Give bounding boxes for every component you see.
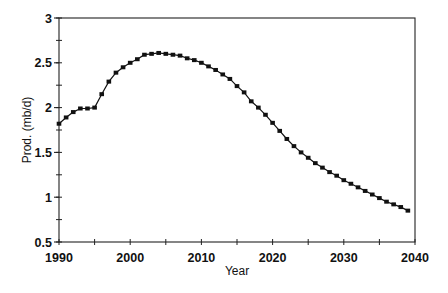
data-point-marker <box>64 115 69 119</box>
y-axis-title: Prod. (mb/d) <box>20 97 34 164</box>
data-point-marker <box>327 170 332 174</box>
data-point-marker <box>164 52 169 56</box>
data-point-marker <box>235 84 240 88</box>
data-point-marker <box>342 178 347 182</box>
y-axis: 0.511.522.53 <box>35 12 62 250</box>
x-tick-label: 2010 <box>187 251 215 265</box>
data-point-marker <box>363 189 368 193</box>
line-chart: 0.511.522.53 199020002010202020302040 Ye… <box>0 0 448 293</box>
data-point-marker <box>85 106 90 110</box>
y-tick-label: 2 <box>45 101 52 115</box>
data-point-marker <box>71 110 76 114</box>
data-point-marker <box>313 161 318 165</box>
data-point-marker <box>171 53 176 57</box>
x-tick-label: 2020 <box>259 251 287 265</box>
data-point-marker <box>135 57 140 61</box>
data-point-marker <box>57 122 62 126</box>
data-point-marker <box>320 166 325 170</box>
y-tick-label: 3 <box>45 12 52 26</box>
data-point-marker <box>263 113 268 117</box>
data-series <box>57 51 410 213</box>
data-point-marker <box>114 71 119 75</box>
plot-area-border <box>59 18 415 242</box>
data-point-marker <box>99 92 104 96</box>
data-point-marker <box>142 53 147 57</box>
data-point-marker <box>149 52 154 56</box>
data-point-marker <box>178 54 183 58</box>
data-point-marker <box>391 202 396 206</box>
data-point-marker <box>213 68 218 72</box>
data-point-marker <box>156 51 161 55</box>
plot-frame <box>59 18 415 242</box>
data-point-marker <box>206 64 211 68</box>
data-point-marker <box>121 65 126 69</box>
series-line <box>59 53 408 211</box>
data-point-marker <box>398 205 403 209</box>
data-point-marker <box>249 99 254 103</box>
data-point-marker <box>384 200 389 204</box>
y-tick-label: 1 <box>45 191 52 205</box>
data-point-marker <box>92 106 97 110</box>
data-point-marker <box>192 58 197 62</box>
x-tick-label: 2040 <box>401 251 429 265</box>
data-point-marker <box>228 77 233 81</box>
data-point-marker <box>349 182 354 186</box>
data-point-marker <box>377 196 382 200</box>
data-point-marker <box>270 121 275 125</box>
x-axis-title: Year <box>225 264 249 278</box>
data-point-marker <box>285 137 290 141</box>
data-point-marker <box>199 61 204 65</box>
x-tick-label: 1990 <box>45 251 73 265</box>
data-point-marker <box>370 193 375 197</box>
data-point-marker <box>242 90 247 94</box>
data-point-marker <box>334 174 339 178</box>
x-tick-label: 2030 <box>330 251 358 265</box>
data-point-marker <box>107 80 112 84</box>
data-point-marker <box>406 209 411 213</box>
data-point-marker <box>356 185 361 189</box>
data-point-marker <box>299 150 304 154</box>
data-point-marker <box>277 129 282 133</box>
data-point-marker <box>185 56 190 60</box>
data-point-marker <box>256 106 261 110</box>
x-axis: 199020002010202020302040 <box>45 239 429 265</box>
y-tick-label: 1.5 <box>35 146 52 160</box>
data-point-marker <box>78 106 83 110</box>
y-tick-label: 0.5 <box>35 236 52 250</box>
data-point-marker <box>220 72 225 76</box>
data-point-marker <box>306 156 311 160</box>
y-tick-label: 2.5 <box>35 56 52 70</box>
x-tick-label: 2000 <box>116 251 144 265</box>
data-point-marker <box>292 144 297 148</box>
data-point-marker <box>128 61 133 65</box>
